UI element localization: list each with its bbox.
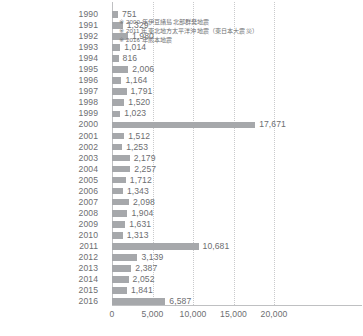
category-label: 2007	[0, 197, 98, 208]
bar	[112, 99, 124, 106]
bar	[112, 88, 127, 95]
bar-row: 20011,512	[0, 131, 363, 142]
bar-value-label: 1,512	[128, 131, 150, 142]
category-label: 1996	[0, 75, 98, 86]
bar-row: 20021,253	[0, 142, 363, 153]
bar-value-label: 1,023	[124, 108, 146, 119]
bar-row: 20042,257	[0, 164, 363, 175]
bar	[112, 122, 255, 129]
bar-value-label: 1,631	[129, 219, 151, 230]
category-label: 1997	[0, 86, 98, 97]
bar-value-label: 1,791	[131, 86, 153, 97]
annotation-line: ※ 2011 年東北地方太平洋沖地震（東日本大震災）	[119, 26, 359, 35]
bar-value-label: 2,387	[135, 263, 157, 274]
bar	[112, 177, 126, 184]
bar	[112, 254, 137, 261]
category-label: 2006	[0, 186, 98, 197]
bar	[112, 133, 124, 140]
bar-row: 20132,387	[0, 263, 363, 274]
category-label: 2013	[0, 263, 98, 274]
bar	[112, 221, 125, 228]
bar-value-label: 6,587	[169, 296, 191, 307]
bar-value-label: 1,343	[127, 186, 149, 197]
x-tick-label: 15,000	[220, 309, 247, 319]
bar-row: 20166,587	[0, 296, 363, 307]
bar	[112, 276, 129, 283]
bar	[112, 199, 129, 206]
category-label: 1993	[0, 42, 98, 53]
category-label: 2015	[0, 285, 98, 296]
bar-value-label: 1,164	[125, 75, 147, 86]
bar-row: 201110,681	[0, 241, 363, 252]
bar	[112, 77, 121, 84]
bar-row: 20051,712	[0, 175, 363, 186]
bar-value-label: 10,681	[203, 241, 230, 252]
bar-row: 20123,139	[0, 252, 363, 263]
bar-rows: 199075119911,32919921,98019931,014199481…	[0, 9, 363, 307]
x-axis-tick-labels: 05,00010,00015,00020,000	[0, 309, 363, 323]
bar-row: 20101,313	[0, 230, 363, 241]
bar-row: 20151,841	[0, 285, 363, 296]
bar-value-label: 1,313	[127, 230, 149, 241]
category-label: 2004	[0, 164, 98, 175]
chart-annotations: ※ 2000 年伊豆諸島北部群発地震※ 2011 年東北地方太平洋沖地震（東日本…	[119, 17, 359, 44]
category-label: 2002	[0, 142, 98, 153]
bar-value-label: 2,257	[134, 164, 156, 175]
bar-row: 19971,791	[0, 86, 363, 97]
bar-value-label: 3,139	[141, 252, 163, 263]
bar	[112, 11, 118, 18]
category-label: 2003	[0, 153, 98, 164]
bar-value-label: 816	[123, 53, 138, 64]
x-tick-label: 10,000	[180, 309, 207, 319]
bar-value-label: 2,052	[133, 274, 155, 285]
category-label: 1998	[0, 97, 98, 108]
bar	[112, 232, 123, 239]
category-label: 2009	[0, 219, 98, 230]
x-tick-label: 20,000	[261, 309, 288, 319]
annotation-line: ※ 2000 年伊豆諸島北部群発地震	[119, 17, 359, 26]
bar	[112, 155, 130, 162]
bar	[112, 66, 128, 73]
plot-area: 199075119911,32919921,98019931,014199481…	[0, 0, 363, 336]
bar-row: 19952,006	[0, 64, 363, 75]
bar	[112, 298, 165, 305]
bar	[112, 111, 120, 118]
category-label: 1992	[0, 31, 98, 42]
bar-value-label: 2,006	[132, 64, 154, 75]
category-label: 2001	[0, 131, 98, 142]
x-tick-label: 0	[110, 309, 115, 319]
category-label: 2012	[0, 252, 98, 263]
bar	[112, 265, 131, 272]
bar	[112, 188, 123, 195]
bar-value-label: 2,179	[134, 153, 156, 164]
bar	[112, 55, 119, 62]
category-label: 2008	[0, 208, 98, 219]
category-label: 2005	[0, 175, 98, 186]
bar-row: 200017,671	[0, 119, 363, 130]
bar	[112, 144, 122, 151]
bar-value-label: 17,671	[259, 119, 286, 130]
category-label: 2014	[0, 274, 98, 285]
bar-row: 20072,098	[0, 197, 363, 208]
bar-value-label: 1,841	[131, 285, 153, 296]
bar	[112, 287, 127, 294]
bar-row: 19991,023	[0, 108, 363, 119]
bar-row: 20091,631	[0, 219, 363, 230]
x-tick-label: 5,000	[142, 309, 164, 319]
category-label: 2000	[0, 119, 98, 130]
category-label: 1999	[0, 108, 98, 119]
bar-row: 20032,179	[0, 153, 363, 164]
bar-value-label: 1,712	[130, 175, 152, 186]
category-label: 1991	[0, 20, 98, 31]
bar	[112, 243, 199, 250]
category-label: 2016	[0, 296, 98, 307]
bar-value-label: 1,253	[126, 142, 148, 153]
bar-row: 20061,343	[0, 186, 363, 197]
annotation-line: ※ 2016 年熊本地震	[119, 35, 359, 44]
category-label: 1990	[0, 9, 98, 20]
category-label: 2011	[0, 241, 98, 252]
category-label: 2010	[0, 230, 98, 241]
bar	[112, 166, 130, 173]
bar-row: 19981,520	[0, 97, 363, 108]
category-label: 1995	[0, 64, 98, 75]
